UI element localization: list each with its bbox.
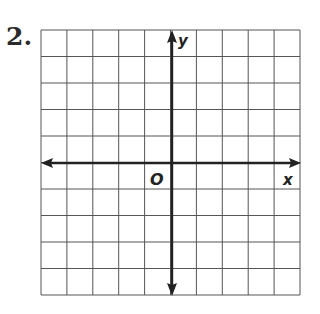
x-axis-label: x — [282, 171, 294, 189]
origin-label: O — [150, 170, 164, 189]
y-axis-label: y — [178, 32, 189, 50]
coordinate-plane: y x O — [0, 0, 320, 314]
